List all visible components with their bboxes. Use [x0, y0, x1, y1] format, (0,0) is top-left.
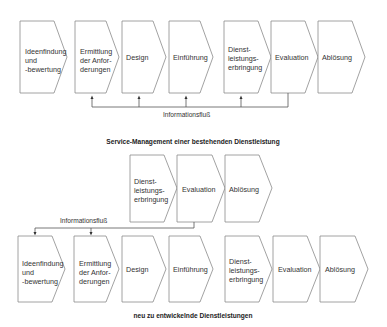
information-flow-label-bottom: Informationsfluß — [60, 217, 107, 224]
step-label-design-new: Design — [126, 265, 148, 274]
caption-existing-service: Service-Management einer bestehenden Die… — [106, 138, 279, 145]
arrow-up-icon — [185, 96, 188, 100]
step-label-evaluation: Evaluation — [275, 53, 309, 62]
step-label-evaluation-existing: Evaluation — [182, 185, 216, 194]
arrow-down-icon — [34, 232, 37, 236]
step-label-evaluation-new: Evaluation — [278, 265, 312, 274]
bottom-information-flow-connector — [34, 222, 195, 236]
step-label-design: Design — [126, 53, 148, 62]
caption-new-services: neu zu entwickelnde Dienstleistungen — [133, 312, 252, 319]
arrow-up-icon — [91, 96, 94, 100]
step-label-einfuehrung-new: Einführung — [173, 265, 208, 274]
arrow-down-icon — [90, 232, 93, 236]
step-label-abloesung-new: Ablösung — [325, 265, 355, 274]
step-label-ermittlung: Ermittlung der Anfor- derungen — [80, 47, 112, 74]
arrow-up-icon — [240, 96, 243, 100]
information-flow-label-top: Informationsfluß — [163, 111, 210, 118]
step-label-ideenfindung: Ideenfindung und -bewertung — [25, 47, 67, 74]
step-label-dienstleistung: Dienst- leistungs- erbringung — [228, 45, 262, 72]
arrow-up-icon — [138, 96, 141, 100]
step-label-abloesung-existing: Ablösung — [229, 185, 259, 194]
step-label-einfuehrung: Einführung — [173, 53, 208, 62]
step-label-ermittlung-new: Ermittlung der Anfor- derungen — [79, 259, 111, 286]
step-label-dienstleistung-existing: Dienst- leistungs- erbringung — [134, 177, 168, 204]
step-label-ideenfindung-new: Ideenfindung und -bewertung — [22, 259, 64, 286]
step-label-abloesung: Ablösung — [322, 53, 352, 62]
top-information-flow-connector — [91, 93, 289, 107]
step-label-dienstleistung-new: Dienst- leistungs- erbringung — [229, 257, 263, 284]
